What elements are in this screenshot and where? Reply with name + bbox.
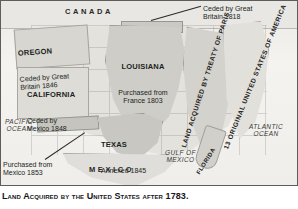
label-canada: CANADA: [65, 8, 113, 16]
label-texas-group: TEXAS Annexed 1845: [101, 123, 146, 186]
label-texas-title: TEXAS: [101, 141, 146, 149]
label-oregon-title: OREGON: [18, 46, 68, 58]
label-pacific-ocean: PACIFIC OCEAN: [5, 118, 33, 133]
figure-caption: Land Acquired by the United States after…: [2, 191, 189, 201]
label-louisiana-sub: Purchased from France 1803: [111, 89, 175, 105]
map-frame: CANADA MEXICO OREGON Ceded by Great Brit…: [0, 0, 298, 186]
map-figure: CANADA MEXICO OREGON Ceded by Great Brit…: [0, 0, 298, 209]
label-louisiana-group: LOUISIANA Purchased from France 1803: [111, 45, 175, 123]
label-california-title: CALIFORNIA: [27, 91, 75, 99]
label-gulf-of-mexico: GULF OF MEXICO: [165, 149, 196, 164]
label-texas-sub: Annexed 1845: [101, 167, 146, 175]
label-louisiana-title: LOUISIANA: [111, 63, 175, 71]
label-atlantic-ocean: ATLANTIC OCEAN: [249, 123, 283, 138]
label-california-sub: Ceded by Mexico 1848: [27, 117, 75, 133]
label-gadsden-purchase: Purchased from Mexico 1853: [3, 161, 52, 177]
label-california-group: CALIFORNIA Ceded by Mexico 1848: [27, 73, 75, 151]
